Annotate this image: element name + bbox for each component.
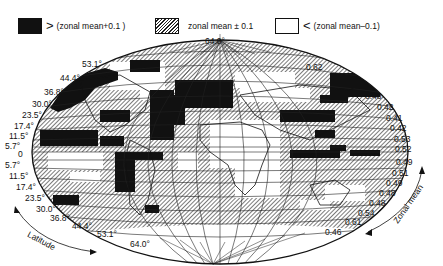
lat-label-n44: 44.4° [60, 74, 80, 83]
lat-label-n17: 17.4° [14, 122, 34, 131]
zonal-mean-n44: 0.55 [350, 82, 367, 91]
zonal-mean-s53: 0.46 [325, 228, 342, 237]
zonal-mean-s23: 0.48 [379, 189, 396, 198]
zonal-mean-n11: 0.53 [394, 135, 411, 144]
lat-label-s53: 53.1° [97, 230, 117, 239]
lat-label-s44: 44.4° [72, 222, 92, 231]
lat-label-n53: 53.1° [82, 60, 102, 69]
zonal-mean-s5: 0.49 [396, 158, 413, 167]
lat-label-s64: 64.0° [130, 240, 150, 249]
lat-label-n64: 64.0° [205, 37, 225, 46]
zonal-mean-n23: 0.41 [386, 114, 403, 123]
lat-label-s23: 23.5° [25, 194, 45, 203]
zonal-mean-n53: 0.64 [334, 73, 351, 82]
zonal-mean-s17: 0.49 [386, 179, 403, 188]
lat-label-n30: 30.0° [32, 100, 52, 109]
zonal-mean-s30: 0.48 [369, 199, 386, 208]
zonal-mean-s11: 0.51 [392, 169, 409, 178]
zonal-mean-n36: 0.48 [365, 92, 382, 101]
lat-label-n23: 23.5° [22, 111, 42, 120]
zonal-mean-n64: 0.62 [306, 63, 323, 72]
lat-label-s17: 17.4° [16, 183, 36, 192]
lat-label-s5: 5.7° [5, 161, 20, 170]
lat-label-equator: 0 [18, 150, 23, 159]
lat-label-n36: 36.8° [44, 88, 64, 97]
zonal-mean-n30: 0.42 [377, 103, 394, 112]
zonal-mean-n5: 0.52 [395, 145, 412, 154]
lat-label-s36: 36.8° [50, 214, 70, 223]
lat-label-s11: 11.5° [9, 172, 28, 181]
zonal-mean-n17: 0.42 [390, 124, 407, 133]
zonal-mean-s44: 0.61 [345, 218, 362, 227]
lat-label-n11: 11.5° [9, 132, 28, 141]
